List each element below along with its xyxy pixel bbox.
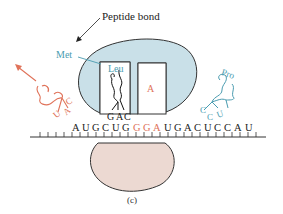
mrna-base: C [194,123,201,134]
mrna-base: G [174,123,182,134]
ribosome-translation-diagram [0,0,283,214]
incoming-anticodon-1: C [200,106,206,115]
mrna-base: G [92,123,100,134]
mrna-base: C [102,123,109,134]
mrna-base: G [122,123,130,134]
mrna-base: U [204,123,212,134]
peptide-bond-arrow [78,18,100,40]
mrna-base: A [72,123,80,134]
mrna-base: C [214,123,221,134]
mrna-base: A [234,123,242,134]
incoming-anticodon-2: C [207,113,213,122]
exiting-trna-icon [18,67,68,112]
figure-caption: (c) [127,196,137,205]
p-site-anticodon-3: C [124,112,131,122]
small-subunit [90,143,174,191]
p-site-anticodon-2: A [116,112,123,122]
leu-label: Leu [108,64,124,74]
mrna-base-highlight: A [153,123,161,134]
mrna-base: C [224,123,231,134]
mrna-base-highlight: G [143,123,151,134]
peptide-bond-label: Peptide bond [102,11,160,22]
met-label: Met [56,50,72,60]
a-site-label: A [147,84,154,94]
mrna-base: U [164,123,172,134]
p-site-anticodon-1: G [107,112,114,122]
mrna-base: A [184,123,192,134]
mrna-base-highlight: G [133,123,141,134]
mrna-base: U [245,123,253,134]
mrna-base: U [82,123,90,134]
mrna-base: U [112,123,120,134]
